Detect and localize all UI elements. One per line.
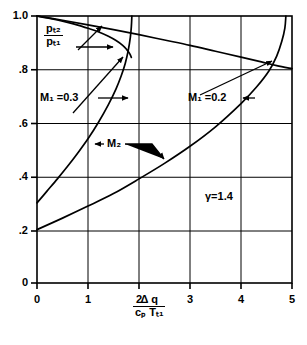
y-tick-0-8: .8: [6, 63, 28, 75]
x-tick-1: 1: [81, 293, 95, 305]
curve-exit-mach-number-M1-0.2: [37, 16, 286, 230]
plot-frame: [37, 16, 292, 283]
data-curves: [37, 16, 292, 230]
x-axis-ticks: [37, 283, 292, 289]
x-axis-label: Δ q cₚ Tₜ₁: [133, 294, 165, 318]
y-tick-0: 0: [6, 276, 28, 288]
x-tick-3: 3: [183, 293, 197, 305]
x-tick-5: 5: [285, 293, 299, 305]
x-axis-label-numerator: Δ q: [133, 294, 165, 306]
x-axis-label-denominator: cₚ Tₜ₁: [133, 306, 165, 319]
annotation-m1-02: M₁ =0.2: [188, 91, 226, 103]
m1-03-leader: [73, 57, 123, 113]
x-tick-0: 0: [30, 293, 44, 305]
y-axis-label-denominator: pₜ₁: [44, 35, 63, 48]
y-tick-0-4: .4: [6, 170, 28, 182]
annotation-m2: M₂: [107, 137, 121, 149]
x-gridlines: [88, 16, 241, 283]
m2-right-leader: [125, 144, 164, 159]
y-axis-label-numerator: pₜ₂: [44, 23, 63, 35]
m1-02-leader: [200, 61, 272, 95]
x-tick-4: 4: [234, 293, 248, 305]
y-axis-label: pₜ₂ pₜ₁: [44, 23, 63, 47]
y-tick-0-2: .2: [6, 224, 28, 236]
annotation-m1-03: M₁ =0.3: [40, 91, 78, 103]
y-tick-1-0: 1.0: [6, 9, 28, 21]
y-axis-ticks: [31, 16, 37, 283]
annotation-gamma: γ=1.4: [205, 190, 233, 202]
y-tick-0-6: .6: [6, 117, 28, 129]
